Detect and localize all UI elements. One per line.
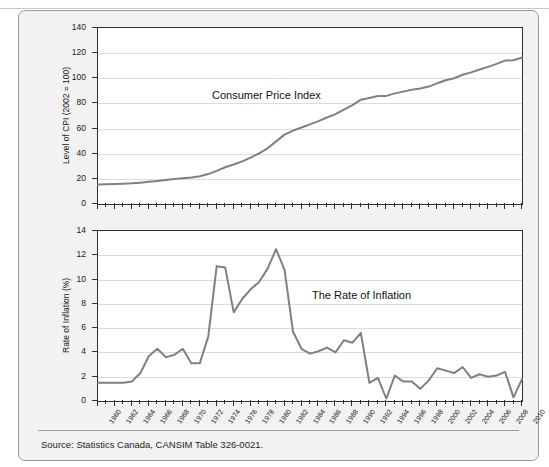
x-tick-label: 1960 bbox=[108, 408, 123, 425]
x-tick-mark bbox=[114, 400, 115, 406]
inflation-plot-area bbox=[97, 230, 523, 402]
x-tick-label: 1980 bbox=[277, 408, 292, 425]
x-tick-label: 1998 bbox=[430, 408, 445, 425]
x-tick-mark bbox=[453, 400, 454, 406]
y-tick-label: 40 bbox=[77, 148, 86, 158]
x-tick-mark bbox=[428, 203, 429, 207]
x-tick-label: 1972 bbox=[209, 408, 224, 425]
x-tick-mark bbox=[97, 400, 98, 406]
y-tick-mark bbox=[92, 52, 97, 53]
x-tick-mark bbox=[470, 203, 471, 209]
source-note: Source: Statistics Canada, CANSIM Table … bbox=[41, 439, 263, 450]
x-tick-mark bbox=[165, 203, 166, 209]
y-tick-label: 8 bbox=[81, 298, 86, 308]
x-tick-label: 1968 bbox=[175, 408, 190, 425]
x-tick-mark bbox=[479, 400, 480, 404]
x-tick-mark bbox=[487, 400, 488, 406]
x-tick-mark bbox=[199, 203, 200, 209]
x-tick-mark bbox=[462, 203, 463, 207]
x-tick-mark bbox=[284, 203, 285, 209]
x-tick-mark bbox=[156, 203, 157, 207]
x-tick-mark bbox=[207, 400, 208, 404]
x-tick-mark bbox=[131, 203, 132, 209]
y-tick-label: 60 bbox=[77, 123, 86, 133]
x-tick-mark bbox=[487, 203, 488, 209]
x-tick-mark bbox=[182, 203, 183, 209]
x-tick-mark bbox=[394, 203, 395, 207]
x-tick-label: 1964 bbox=[142, 408, 157, 425]
x-tick-mark bbox=[351, 203, 352, 209]
x-tick-mark bbox=[360, 203, 361, 207]
x-tick-mark bbox=[496, 400, 497, 404]
y-tick-label: 12 bbox=[77, 249, 86, 259]
x-tick-mark bbox=[190, 400, 191, 404]
x-tick-mark bbox=[309, 203, 310, 207]
y-tick-label: 14 bbox=[77, 225, 86, 235]
y-tick-label: 140 bbox=[72, 22, 86, 32]
x-tick-mark bbox=[317, 203, 318, 209]
x-tick-mark bbox=[360, 400, 361, 404]
x-tick-mark bbox=[521, 400, 522, 406]
y-tick-mark bbox=[92, 27, 97, 28]
x-tick-mark bbox=[479, 203, 480, 207]
y-tick-label: 20 bbox=[77, 173, 86, 183]
y-tick-label: 100 bbox=[72, 72, 86, 82]
x-tick-mark bbox=[139, 203, 140, 207]
x-tick-label: 1994 bbox=[396, 408, 411, 425]
x-tick-mark bbox=[148, 400, 149, 406]
x-tick-mark bbox=[351, 400, 352, 406]
x-tick-mark bbox=[513, 400, 514, 404]
x-tick-label: 1982 bbox=[294, 408, 309, 425]
x-tick-mark bbox=[148, 203, 149, 209]
x-tick-mark bbox=[284, 400, 285, 406]
x-tick-mark bbox=[233, 400, 234, 406]
x-tick-label: 1974 bbox=[226, 408, 241, 425]
cpi-plot-area bbox=[97, 27, 523, 205]
x-tick-label: 2008 bbox=[515, 408, 530, 425]
figure-page: 020406080100120140 Level of CPI (2002 = … bbox=[0, 0, 549, 467]
y-tick-mark bbox=[92, 279, 97, 280]
x-tick-mark bbox=[343, 203, 344, 207]
x-tick-mark bbox=[292, 203, 293, 207]
x-tick-mark bbox=[301, 400, 302, 406]
y-tick-mark bbox=[92, 77, 97, 78]
y-tick-mark bbox=[92, 254, 97, 255]
x-tick-mark bbox=[317, 400, 318, 406]
x-tick-mark bbox=[326, 203, 327, 207]
x-tick-mark bbox=[419, 203, 420, 209]
x-tick-mark bbox=[173, 400, 174, 404]
x-tick-mark bbox=[402, 203, 403, 209]
x-tick-mark bbox=[241, 203, 242, 207]
cpi-series-label: Consumer Price Index bbox=[212, 89, 321, 101]
x-tick-mark bbox=[241, 400, 242, 404]
x-tick-mark bbox=[182, 400, 183, 406]
x-tick-mark bbox=[504, 203, 505, 209]
x-tick-mark bbox=[258, 400, 259, 404]
x-tick-mark bbox=[105, 400, 106, 404]
x-tick-mark bbox=[394, 400, 395, 404]
x-tick-mark bbox=[199, 400, 200, 406]
x-tick-mark bbox=[326, 400, 327, 404]
x-tick-mark bbox=[411, 400, 412, 404]
x-tick-mark bbox=[224, 203, 225, 207]
x-tick-mark bbox=[207, 203, 208, 207]
x-tick-label: 2002 bbox=[464, 408, 479, 425]
y-tick-label: 0 bbox=[81, 395, 86, 405]
x-tick-label: 2006 bbox=[498, 408, 513, 425]
y-tick-mark bbox=[92, 327, 97, 328]
x-tick-label: 1984 bbox=[311, 408, 326, 425]
x-tick-mark bbox=[496, 203, 497, 207]
series-line bbox=[98, 231, 522, 401]
x-tick-mark bbox=[436, 400, 437, 406]
x-tick-mark bbox=[385, 400, 386, 406]
x-tick-mark bbox=[216, 400, 217, 406]
x-tick-mark bbox=[462, 400, 463, 404]
x-tick-mark bbox=[250, 203, 251, 209]
x-tick-mark bbox=[156, 400, 157, 404]
x-tick-mark bbox=[402, 400, 403, 406]
x-tick-mark bbox=[377, 400, 378, 404]
x-tick-mark bbox=[131, 400, 132, 406]
x-tick-mark bbox=[411, 203, 412, 207]
cpi-y-axis-title: Level of CPI (2002 = 100) bbox=[61, 66, 71, 163]
x-tick-label: 2010 bbox=[532, 408, 547, 425]
